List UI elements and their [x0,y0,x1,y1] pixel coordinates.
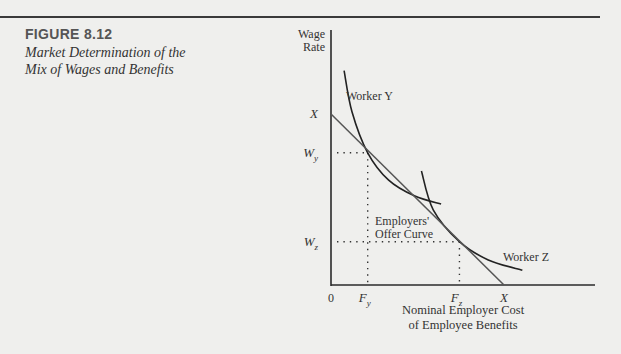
series-labels: Worker YWorker ZEmployers'Offer Curve [346,89,549,264]
y-tick-wz: Wz [304,234,319,252]
offer-curve-label-line2: Offer Curve [375,227,433,241]
y-tick-wy: Wy [303,145,318,163]
x-axis-label-line2: of Employee Benefits [409,318,518,332]
x-tick-x: X [499,290,509,305]
employers-offer-curve-line [331,114,504,285]
y-tick-x: X [309,106,319,121]
offer-curve-label-line1: Employers' [375,214,429,228]
x-axis-label-line1: Nominal Employer Cost [402,303,525,317]
x-tick-fy: Fy [358,290,371,308]
y-axis-label-line2: Rate [303,40,325,54]
chart: Wage Rate Nominal Employer Cost of Emplo… [0,0,621,354]
worker-y-label: Worker Y [346,89,393,103]
origin-label: 0 [328,291,334,305]
tick-labels: XWyWzFyFzX [303,106,509,308]
y-axis-label-line1: Wage [298,27,325,41]
worker-z-label: Worker Z [503,250,549,264]
